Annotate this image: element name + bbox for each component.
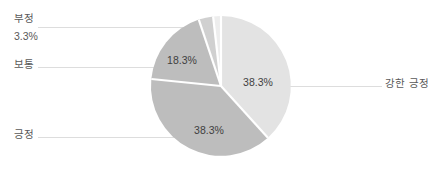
callout-label-positive: 긍정	[14, 128, 34, 141]
callout-label-negative: 부정	[14, 12, 34, 25]
callout-value-negative: 3.3%	[14, 30, 38, 43]
slice-label-strong-positive: 38.3%	[243, 76, 273, 88]
callout-label-neutral: 보통	[14, 58, 34, 71]
callout-label-strong-positive: 강한 긍정	[385, 77, 429, 90]
slice-label-neutral: 18.3%	[167, 54, 197, 66]
slice-label-positive: 38.3%	[194, 124, 224, 136]
pie-chart-canvas: 38.3% 38.3% 18.3%	[0, 0, 439, 172]
pie-chart-figure: 38.3% 38.3% 18.3% 부정 3.3% 보통 긍정 강한 긍정	[0, 0, 439, 172]
